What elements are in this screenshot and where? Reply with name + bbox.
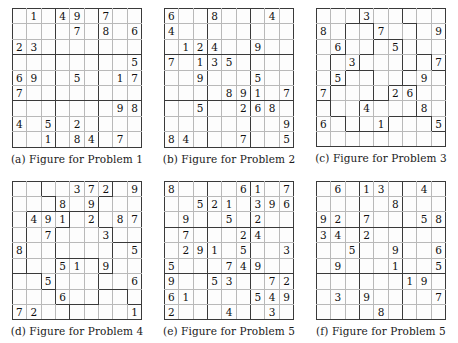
sudoku-cell-empty[interactable] bbox=[345, 9, 359, 24]
sudoku-cell-filled[interactable]: 2 bbox=[84, 212, 98, 227]
sudoku-cell-empty[interactable] bbox=[127, 39, 141, 54]
sudoku-cell-empty[interactable] bbox=[99, 70, 113, 85]
sudoku-cell-filled[interactable]: 1 bbox=[359, 181, 373, 196]
sudoku-cell-empty[interactable] bbox=[70, 289, 84, 304]
sudoku-cell-empty[interactable] bbox=[345, 39, 359, 54]
sudoku-cell-empty[interactable] bbox=[236, 70, 250, 85]
sudoku-cell-empty[interactable] bbox=[12, 24, 26, 39]
sudoku-cell-empty[interactable] bbox=[417, 132, 431, 146]
sudoku-cell-empty[interactable] bbox=[84, 70, 98, 85]
sudoku-cell-empty[interactable] bbox=[265, 227, 279, 242]
sudoku-cell-empty[interactable] bbox=[55, 181, 69, 196]
sudoku-cell-empty[interactable] bbox=[127, 258, 141, 273]
sudoku-cell-empty[interactable] bbox=[222, 227, 236, 242]
sudoku-cell-empty[interactable] bbox=[265, 132, 279, 147]
sudoku-cell-empty[interactable] bbox=[55, 101, 69, 116]
sudoku-cell-empty[interactable] bbox=[41, 101, 55, 116]
sudoku-cell-filled[interactable]: 3 bbox=[99, 227, 113, 242]
sudoku-cell-empty[interactable] bbox=[417, 304, 431, 319]
sudoku-cell-empty[interactable] bbox=[359, 258, 373, 273]
sudoku-cell-empty[interactable] bbox=[164, 212, 178, 227]
sudoku-grid-5[interactable]: 86175213969527242915357499537261549243 bbox=[164, 181, 295, 321]
sudoku-cell-filled[interactable]: 5 bbox=[193, 101, 207, 116]
sudoku-cell-empty[interactable] bbox=[279, 70, 293, 85]
sudoku-cell-filled[interactable]: 7 bbox=[164, 55, 178, 70]
sudoku-cell-empty[interactable] bbox=[265, 24, 279, 39]
sudoku-cell-filled[interactable]: 7 bbox=[41, 227, 55, 242]
sudoku-cell-empty[interactable] bbox=[388, 101, 402, 116]
sudoku-cell-empty[interactable] bbox=[12, 55, 26, 70]
sudoku-cell-empty[interactable] bbox=[70, 274, 84, 289]
sudoku-cell-empty[interactable] bbox=[113, 289, 127, 304]
sudoku-cell-filled[interactable]: 4 bbox=[179, 132, 193, 147]
sudoku-cell-filled[interactable]: 9 bbox=[236, 86, 250, 101]
sudoku-cell-empty[interactable] bbox=[193, 289, 207, 304]
sudoku-cell-filled[interactable]: 2 bbox=[12, 39, 26, 54]
sudoku-cell-empty[interactable] bbox=[127, 132, 141, 147]
sudoku-cell-empty[interactable] bbox=[99, 86, 113, 101]
sudoku-cell-filled[interactable]: 6 bbox=[279, 197, 293, 212]
sudoku-cell-empty[interactable] bbox=[345, 227, 359, 242]
sudoku-cell-filled[interactable]: 9 bbox=[84, 197, 98, 212]
sudoku-cell-empty[interactable] bbox=[164, 197, 178, 212]
sudoku-cell-filled[interactable]: 5 bbox=[207, 274, 221, 289]
sudoku-cell-empty[interactable] bbox=[417, 39, 431, 54]
sudoku-cell-filled[interactable]: 7 bbox=[279, 181, 293, 196]
sudoku-cell-empty[interactable] bbox=[207, 132, 221, 147]
sudoku-cell-empty[interactable] bbox=[41, 181, 55, 196]
sudoku-cell-empty[interactable] bbox=[55, 274, 69, 289]
sudoku-cell-empty[interactable] bbox=[207, 70, 221, 85]
sudoku-cell-empty[interactable] bbox=[279, 39, 293, 54]
sudoku-cell-empty[interactable] bbox=[207, 227, 221, 242]
sudoku-cell-filled[interactable]: 7 bbox=[222, 258, 236, 273]
sudoku-cell-empty[interactable] bbox=[55, 39, 69, 54]
sudoku-cell-filled[interactable]: 8 bbox=[431, 212, 445, 227]
sudoku-cell-empty[interactable] bbox=[222, 9, 236, 24]
sudoku-cell-empty[interactable] bbox=[84, 86, 98, 101]
sudoku-cell-empty[interactable] bbox=[99, 212, 113, 227]
sudoku-cell-empty[interactable] bbox=[359, 274, 373, 289]
sudoku-cell-empty[interactable] bbox=[265, 212, 279, 227]
sudoku-cell-filled[interactable]: 7 bbox=[127, 70, 141, 85]
sudoku-cell-empty[interactable] bbox=[316, 304, 330, 319]
sudoku-cell-empty[interactable] bbox=[345, 101, 359, 116]
sudoku-cell-empty[interactable] bbox=[41, 289, 55, 304]
sudoku-cell-empty[interactable] bbox=[345, 116, 359, 131]
sudoku-cell-filled[interactable]: 8 bbox=[127, 101, 141, 116]
sudoku-cell-empty[interactable] bbox=[388, 132, 402, 146]
sudoku-cell-empty[interactable] bbox=[403, 212, 417, 227]
sudoku-cell-empty[interactable] bbox=[222, 39, 236, 54]
sudoku-cell-empty[interactable] bbox=[193, 258, 207, 273]
sudoku-cell-empty[interactable] bbox=[251, 116, 265, 131]
sudoku-cell-empty[interactable] bbox=[403, 55, 417, 70]
sudoku-cell-filled[interactable]: 3 bbox=[279, 243, 293, 258]
sudoku-cell-filled[interactable]: 5 bbox=[345, 243, 359, 258]
sudoku-cell-filled[interactable]: 3 bbox=[359, 9, 373, 24]
sudoku-cell-empty[interactable] bbox=[417, 227, 431, 242]
sudoku-cell-filled[interactable]: 9 bbox=[179, 212, 193, 227]
sudoku-cell-filled[interactable]: 9 bbox=[279, 116, 293, 131]
sudoku-cell-empty[interactable] bbox=[403, 227, 417, 242]
sudoku-cell-empty[interactable] bbox=[374, 39, 388, 54]
sudoku-cell-empty[interactable] bbox=[27, 227, 41, 242]
sudoku-cell-empty[interactable] bbox=[127, 9, 141, 24]
sudoku-cell-empty[interactable] bbox=[193, 132, 207, 147]
sudoku-cell-empty[interactable] bbox=[193, 181, 207, 196]
sudoku-cell-empty[interactable] bbox=[127, 116, 141, 131]
sudoku-cell-empty[interactable] bbox=[331, 274, 345, 289]
sudoku-cell-filled[interactable]: 4 bbox=[55, 9, 69, 24]
sudoku-cell-empty[interactable] bbox=[279, 55, 293, 70]
sudoku-cell-empty[interactable] bbox=[127, 227, 141, 242]
sudoku-cell-filled[interactable]: 1 bbox=[251, 86, 265, 101]
sudoku-cell-filled[interactable]: 5 bbox=[431, 258, 445, 273]
sudoku-cell-empty[interactable] bbox=[41, 24, 55, 39]
sudoku-cell-empty[interactable] bbox=[345, 70, 359, 85]
sudoku-cell-empty[interactable] bbox=[193, 9, 207, 24]
sudoku-cell-filled[interactable]: 7 bbox=[127, 212, 141, 227]
sudoku-cell-filled[interactable]: 1 bbox=[113, 70, 127, 85]
sudoku-cell-filled[interactable]: 7 bbox=[113, 132, 127, 147]
sudoku-cell-empty[interactable] bbox=[345, 258, 359, 273]
sudoku-cell-empty[interactable] bbox=[388, 212, 402, 227]
sudoku-cell-filled[interactable]: 4 bbox=[359, 101, 373, 116]
sudoku-cell-empty[interactable] bbox=[113, 274, 127, 289]
